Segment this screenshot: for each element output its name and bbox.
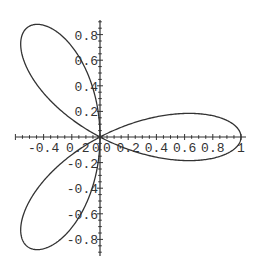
x-tick-label: 0 bbox=[92, 141, 100, 156]
x-tick-label: 0.4 bbox=[145, 141, 169, 156]
x-tick-label: 1 bbox=[237, 141, 245, 156]
y-tick-label: 0.4 bbox=[75, 80, 99, 95]
y-tick-label: -0.6 bbox=[67, 208, 98, 223]
y-tick-label: 0.2 bbox=[75, 105, 98, 120]
x-tick-label: 0.2 bbox=[66, 141, 89, 156]
y-tick-label: -0.8 bbox=[67, 233, 98, 248]
y-tick-label: 0.6 bbox=[75, 54, 98, 69]
y-tick-label: 0.8 bbox=[75, 29, 98, 44]
rose-curve-chart: -0.40.2000.20.40.60.81 0.80.60.40.2-0.2-… bbox=[0, 0, 257, 273]
x-tick-label: 0.2 bbox=[116, 141, 139, 156]
y-tick-label: -0.4 bbox=[67, 182, 98, 197]
x-tick-label: 0.6 bbox=[173, 141, 196, 156]
x-tick-label: 0.8 bbox=[201, 141, 224, 156]
y-tick-label: -0.2 bbox=[67, 157, 98, 172]
x-tick-labels: -0.40.2000.20.40.60.81 bbox=[28, 141, 245, 156]
x-tick-label: -0.4 bbox=[28, 141, 59, 156]
x-tick-label: 0 bbox=[103, 141, 111, 156]
